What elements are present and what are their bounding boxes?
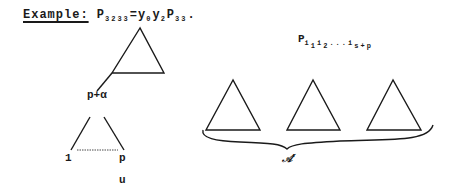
example-label: Example: (23, 8, 89, 22)
formula: P3233=y0y2P33. (97, 8, 196, 22)
brace-label: 𝒜' (282, 152, 295, 165)
top-triangle (112, 28, 164, 73)
subtree-label: Pi1i2...is+p (298, 33, 373, 50)
subtree-triangle-3 (367, 80, 421, 130)
small-triangle-left-edge (71, 117, 90, 150)
subtree-triangle-1 (206, 80, 260, 130)
subtree-triangle-2 (287, 80, 340, 130)
label-u: u (119, 174, 126, 186)
leaf-label-1: 1 (65, 152, 72, 164)
small-triangle-right-edge (104, 117, 124, 150)
node-label-p-alpha: p+α (87, 89, 107, 101)
leaf-label-p: p (119, 152, 126, 164)
example-heading: Example: P3233=y0y2P33. (23, 8, 196, 23)
curly-brace (203, 125, 433, 149)
